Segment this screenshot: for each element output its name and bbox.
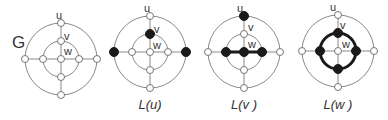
label-u: u (237, 2, 243, 14)
vertex-inner-right (76, 56, 83, 63)
label-w: w (152, 39, 161, 51)
vertex-outer-bottom (335, 84, 342, 91)
vertex-inner-left (40, 56, 47, 63)
label-u: u (56, 9, 62, 21)
vertex-outer-right (371, 48, 378, 55)
vertex-outer-left (205, 49, 212, 56)
panel-link-w: u v w L(w ) (299, 1, 378, 112)
caption-l-w: L(w ) (324, 97, 353, 112)
caption-l-v: L(v ) (231, 97, 257, 112)
panel-link-v: u v w L(v ) (205, 2, 284, 112)
label-v: v (64, 30, 70, 42)
label-w: w (247, 38, 256, 50)
label-w: w (63, 45, 72, 57)
vertex-inner-right-highlighted (352, 47, 361, 56)
label-v: v (154, 23, 160, 35)
graph-label-g: G (12, 33, 25, 52)
vertex-inner-bottom (241, 67, 248, 74)
panel-graph-g: G u v w (12, 9, 101, 99)
vertex-outer-left (299, 48, 306, 55)
vertex-outer-bottom (147, 85, 154, 92)
vertex-inner-bottom-highlighted (334, 65, 343, 74)
vertex-w (335, 48, 342, 55)
vertex-inner-right (165, 49, 172, 56)
caption-l-u: L(u) (138, 97, 161, 112)
label-u: u (330, 1, 336, 13)
vertex-outer-right (94, 56, 101, 63)
vertex-outer-bottom (58, 92, 65, 99)
panel-link-u: u v w L(u) (110, 2, 191, 112)
label-u: u (144, 2, 150, 14)
vertex-outer-left-highlighted (110, 48, 119, 57)
vertex-outer-right (277, 49, 284, 56)
vertex-v (241, 31, 248, 38)
label-v: v (340, 19, 346, 31)
vertex-outer-left (22, 56, 29, 63)
vertex-inner-bottom (58, 74, 65, 81)
vertex-inner-left-highlighted (222, 48, 231, 57)
vertex-inner-left (129, 49, 136, 56)
label-w: w (341, 38, 350, 50)
diagram-canvas: G u v w u v w L(u) (0, 0, 388, 120)
vertex-inner-bottom (147, 67, 154, 74)
vertex-outer-bottom (241, 85, 248, 92)
vertex-outer-right-highlighted (182, 48, 191, 57)
vertex-inner-right-highlighted (258, 48, 267, 57)
vertex-inner-left-highlighted (316, 47, 325, 56)
label-v: v (248, 21, 254, 33)
